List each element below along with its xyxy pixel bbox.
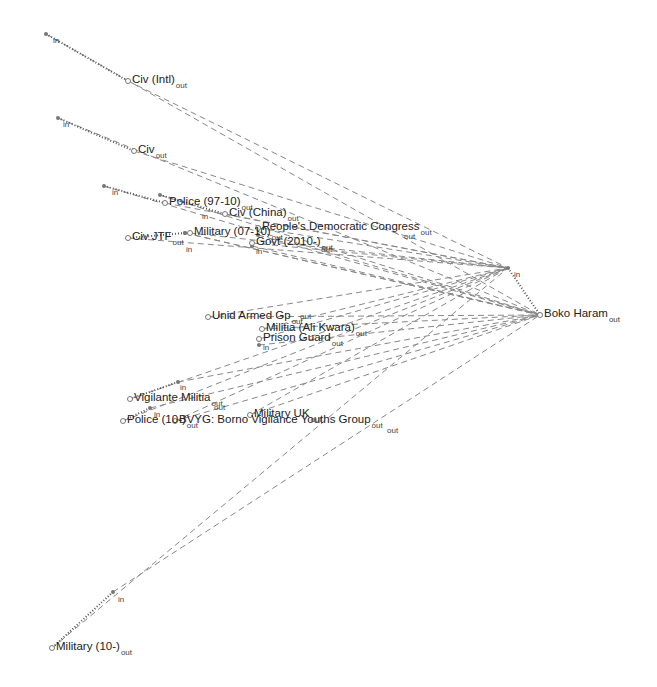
node-marker[interactable] — [128, 397, 133, 402]
node-name: Vigilante Militia — [134, 391, 211, 403]
node-label: Boko Haramout — [544, 308, 620, 320]
edge — [113, 315, 540, 592]
node-in-marker — [111, 590, 115, 594]
node-in-marker — [44, 32, 48, 36]
port-tag: in — [180, 384, 186, 392]
port-tag: in — [53, 37, 59, 45]
node-suffix: out — [332, 339, 343, 348]
node-name: Civ (Intl) — [132, 73, 175, 85]
node-label: Prison Guardout — [263, 332, 343, 344]
node-name: Civ — [138, 143, 155, 155]
node-suffix: out — [311, 415, 322, 424]
edge — [258, 228, 508, 268]
node-name: Govt (2010-) — [256, 235, 321, 247]
node-marker[interactable] — [206, 315, 211, 320]
node-name: Military (10-) — [56, 640, 120, 652]
port-tag: in — [63, 121, 69, 129]
node-in-marker — [158, 193, 162, 197]
node-marker[interactable] — [126, 79, 131, 84]
port-tag: in — [112, 189, 118, 197]
node-marker[interactable] — [188, 231, 193, 236]
port-tag: out — [321, 246, 332, 254]
node-label: Civ JTFout — [132, 231, 184, 243]
node-suffix: out — [356, 329, 367, 338]
node-label: Civ (China)out — [229, 207, 299, 219]
node-name: Unid Armed Gp — [212, 309, 291, 321]
node-marker[interactable] — [126, 236, 131, 241]
port-tag: in — [256, 248, 262, 256]
node-label: Vigilante Militiaout — [134, 392, 223, 404]
node-marker[interactable] — [250, 241, 255, 246]
node-in-marker — [102, 184, 106, 188]
port-tag: out — [300, 313, 311, 321]
edge — [46, 34, 540, 315]
node-name: Military UK — [254, 407, 310, 419]
node-name: Civ (China) — [229, 206, 287, 218]
node-suffix: out — [173, 238, 184, 247]
port-tag: out — [214, 404, 225, 412]
node-label: Civout — [138, 144, 167, 156]
node-in-marker — [257, 343, 261, 347]
node-in-marker — [506, 266, 510, 270]
node-marker[interactable] — [132, 149, 137, 154]
port-tag: in — [118, 596, 124, 604]
edge — [190, 233, 508, 268]
node-marker[interactable] — [538, 313, 543, 318]
node-label: Unid Armed Gpout — [212, 310, 303, 322]
node-suffix: out — [121, 648, 132, 657]
in-out-link — [58, 118, 134, 151]
node-name: Civ JTF — [132, 230, 172, 242]
node-in-marker — [148, 406, 152, 410]
node-suffix: out — [421, 228, 432, 237]
port-tag: out — [404, 233, 415, 241]
node-label: People's Democratic Congressout — [262, 221, 432, 233]
port-tag: in — [263, 344, 269, 352]
node-suffix: out — [156, 151, 167, 160]
node-marker[interactable] — [50, 646, 55, 651]
edge — [58, 118, 540, 315]
port-tag: out — [387, 427, 398, 435]
port-tag: in — [514, 271, 520, 279]
node-suffix: out — [176, 81, 187, 90]
node-name: Prison Guard — [263, 331, 331, 343]
node-label: Military (10-)out — [56, 641, 132, 653]
port-tag: in — [154, 411, 160, 419]
node-suffix: out — [372, 421, 383, 430]
node-name: People's Democratic Congress — [262, 220, 420, 232]
node-label: Civ (Intl)out — [132, 74, 187, 86]
node-in-marker — [56, 116, 60, 120]
node-marker[interactable] — [121, 419, 126, 424]
network-graph — [0, 0, 657, 687]
node-label: Military UKout — [254, 408, 322, 420]
port-tag: in — [186, 246, 192, 254]
port-tag: in — [202, 213, 208, 221]
node-marker[interactable] — [223, 212, 228, 217]
node-suffix: out — [609, 315, 620, 324]
node-name: Boko Haram — [544, 307, 608, 319]
node-marker[interactable] — [257, 337, 262, 342]
node-marker[interactable] — [163, 201, 168, 206]
